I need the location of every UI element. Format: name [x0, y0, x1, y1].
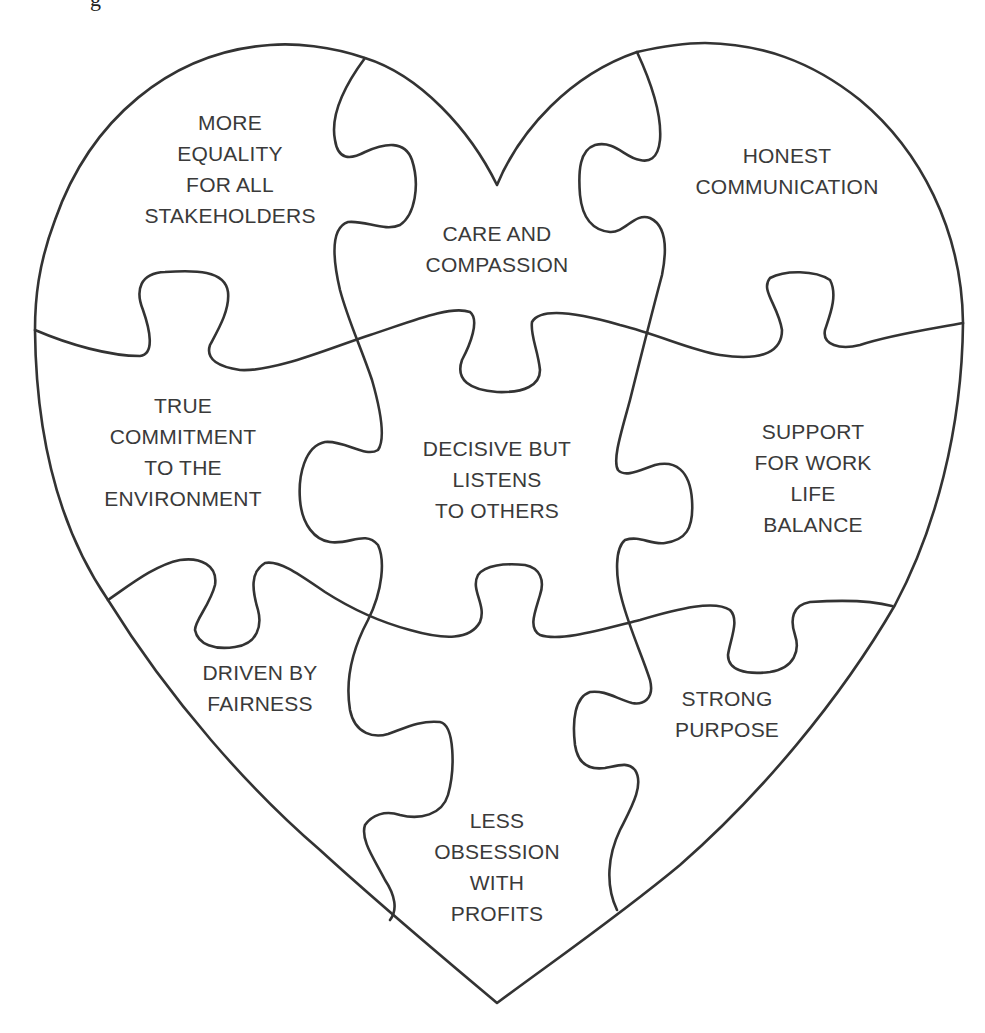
piece-label-bottom-left: DRIVEN BY FAIRNESS: [203, 657, 318, 719]
piece-label-middle-left: TRUE COMMITMENT TO THE ENVIRONMENT: [104, 390, 261, 514]
piece-label-top-left: MORE EQUALITY FOR ALL STAKEHOLDERS: [144, 107, 315, 231]
piece-label-middle-center: DECISIVE BUT LISTENS TO OTHERS: [423, 433, 571, 526]
piece-label-top-right: HONEST COMMUNICATION: [695, 140, 878, 202]
piece-label-middle-right: SUPPORT FOR WORK LIFE BALANCE: [754, 416, 871, 540]
seam-horizontal-bottom: [108, 559, 892, 672]
piece-label-bottom-right: STRONG PURPOSE: [675, 683, 779, 745]
piece-label-top-center: CARE AND COMPASSION: [426, 218, 569, 280]
piece-label-bottom-center: LESS OBSESSION WITH PROFITS: [434, 805, 560, 929]
seam-vertical-right: [574, 52, 692, 910]
seam-horizontal-top: [35, 271, 963, 392]
